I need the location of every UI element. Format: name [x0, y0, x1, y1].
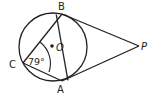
angle-label-c: 79° [28, 56, 45, 67]
geometry-diagram: B A C O P 79° [0, 0, 161, 98]
center-point-o [50, 44, 54, 48]
label-b: B [58, 1, 65, 12]
tangent-pa [62, 46, 139, 81]
label-o: O [56, 42, 64, 53]
label-a: A [57, 84, 64, 95]
label-c: C [9, 59, 16, 70]
tangent-pb [62, 14, 139, 46]
label-p: P [141, 41, 148, 52]
